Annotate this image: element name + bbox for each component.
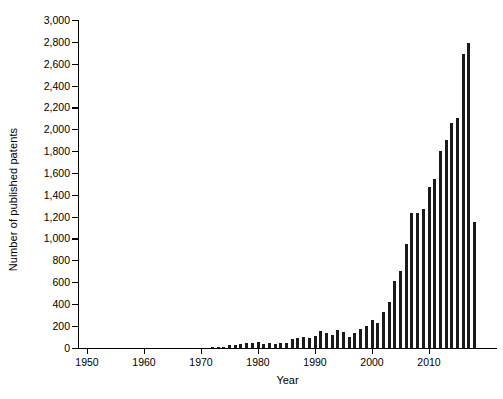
y-axis-tick-label: 1,600 [28,167,70,179]
x-axis-tick-label: 1990 [295,356,335,368]
bar [228,345,231,348]
bar [291,339,294,348]
y-axis-tick-label: 2,600 [28,58,70,70]
x-axis-title: Year [78,374,497,386]
bar [393,281,396,348]
y-axis-tick-label: 2,400 [28,80,70,92]
bar [325,333,328,347]
x-axis-tick [258,348,259,354]
bar [416,213,419,347]
y-axis-tick [72,173,78,174]
x-axis-tick-label: 1950 [67,356,107,368]
y-axis-tick [72,348,78,349]
y-axis-tick [72,42,78,43]
y-axis-tick-label: 3,000 [28,14,70,26]
x-axis-tick [315,348,316,354]
bar [222,347,225,348]
bar [359,329,362,348]
y-axis-tick [72,217,78,218]
plot-area: 02004006008001,0001,2001,4001,6001,8002,… [0,0,503,399]
y-axis-tick-label: 800 [28,254,70,266]
x-axis-line [78,348,497,349]
bar [399,271,402,347]
y-axis-tick [72,64,78,65]
y-axis-tick-label: 0 [28,342,70,354]
bar [473,222,476,348]
bar [336,330,339,347]
y-axis-tick [72,260,78,261]
y-axis-tick [72,238,78,239]
x-axis-tick-label: 2010 [409,356,449,368]
chart-figure: Number of published patents 020040060080… [0,0,503,399]
bar [388,302,391,348]
y-axis-tick-label: 2,800 [28,36,70,48]
bar [274,344,277,348]
y-axis-tick [72,20,78,21]
bar [245,343,248,348]
bar [279,343,282,348]
bar [296,338,299,348]
y-axis-tick-label: 200 [28,320,70,332]
bar [308,338,311,348]
bar [450,123,453,348]
y-axis-tick [72,86,78,87]
bar [342,332,345,347]
bar [382,312,385,348]
y-axis-tick-label: 2,200 [28,101,70,113]
bar [302,337,305,347]
bar [348,337,351,348]
bar [428,187,431,348]
bar [376,323,379,348]
x-axis-tick-label: 1980 [238,356,278,368]
y-axis-tick-label: 1,000 [28,232,70,244]
bar [285,343,288,347]
y-axis-tick [72,129,78,130]
y-axis-tick [72,282,78,283]
y-axis-tick-label: 1,800 [28,145,70,157]
x-axis-tick-label: 1970 [181,356,221,368]
y-axis-tick-label: 2,000 [28,123,70,135]
bar [268,343,271,347]
bar [439,151,442,348]
x-axis-tick [144,348,145,354]
bar [456,118,459,347]
x-axis-tick [87,348,88,354]
bar [239,344,242,347]
bar [217,347,220,348]
bar [371,320,374,347]
bar [365,326,368,348]
y-axis-tick-label: 1,200 [28,211,70,223]
y-axis-line [78,20,79,349]
bar [314,336,317,347]
bar [410,213,413,347]
bar [262,344,265,348]
bar [234,345,237,347]
bar [467,43,470,348]
bar [251,343,254,347]
bar [257,342,260,348]
bar [353,333,356,347]
bar [211,347,214,348]
bar [462,54,465,348]
y-axis-tick [72,151,78,152]
bar [445,140,448,347]
y-axis-tick-label: 400 [28,298,70,310]
bar [422,209,425,348]
x-axis-tick-label: 2000 [352,356,392,368]
bar [433,179,436,347]
y-axis-tick-label: 600 [28,276,70,288]
x-axis-tick-label: 1960 [124,356,164,368]
x-axis-tick [372,348,373,354]
y-axis-tick-label: 1,400 [28,189,70,201]
x-axis-tick [201,348,202,354]
y-axis-tick [72,195,78,196]
y-axis-tick [72,304,78,305]
y-axis-tick [72,326,78,327]
bar [331,335,334,348]
bar [319,331,322,347]
y-axis-tick [72,107,78,108]
bar [405,244,408,348]
x-axis-tick [429,348,430,354]
